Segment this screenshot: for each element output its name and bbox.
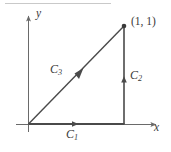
x-axis-label: x bbox=[154, 122, 159, 134]
segment-label-c2-subscript: 2 bbox=[138, 74, 142, 83]
segment-label-c1-base: C bbox=[66, 127, 74, 141]
segment-c3-direction-arrow bbox=[75, 68, 84, 79]
segment-label-c3: C3 bbox=[50, 63, 62, 77]
segment-label-c3-subscript: 3 bbox=[58, 68, 62, 77]
vertex-coordinate-label: (1, 1) bbox=[131, 16, 156, 28]
segment-label-c1-subscript: 1 bbox=[74, 133, 78, 142]
segment-label-c2: C2 bbox=[130, 69, 142, 83]
vertex-point-marker bbox=[122, 24, 127, 29]
segment-label-c1: C1 bbox=[66, 128, 78, 142]
segment-label-c3-base: C bbox=[50, 62, 58, 76]
y-axis-label: y bbox=[36, 8, 41, 20]
segment-c1-direction-arrow bbox=[72, 121, 78, 127]
figure-container: C1 C2 C3 (1, 1) x y bbox=[0, 0, 171, 152]
segment-label-c2-base: C bbox=[130, 68, 138, 82]
segment-c2-direction-arrow bbox=[121, 76, 127, 82]
